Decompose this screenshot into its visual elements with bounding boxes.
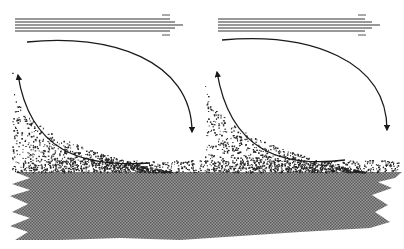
flow-diagram	[0, 0, 404, 249]
diagram-canvas	[0, 0, 404, 249]
ground-layer	[10, 172, 402, 240]
sediment-particles	[12, 73, 400, 174]
wind-arrow-right	[218, 15, 380, 35]
eddy-right	[217, 39, 387, 162]
wind-arrow-left	[15, 15, 183, 35]
